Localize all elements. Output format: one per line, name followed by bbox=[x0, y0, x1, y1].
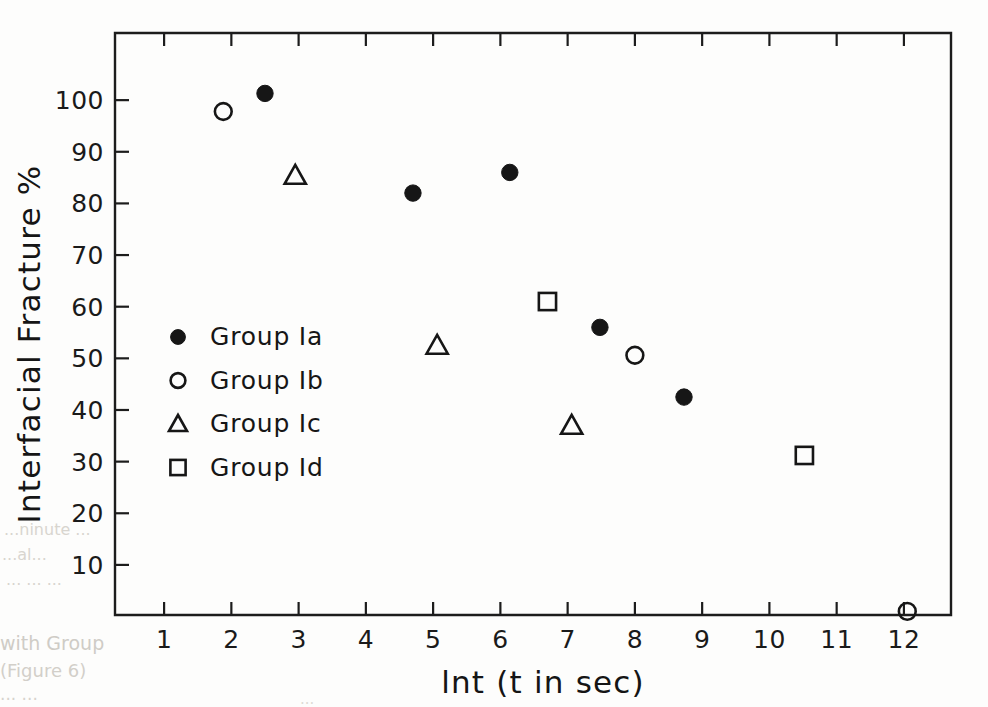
x-tick-label: 6 bbox=[492, 625, 508, 654]
y-tick-label: 60 bbox=[71, 293, 104, 322]
legend-marker-open-triangle bbox=[169, 415, 187, 431]
y-tick-label: 30 bbox=[71, 448, 104, 477]
y-axis-title: Interfacial Fracture % bbox=[11, 165, 47, 524]
legend-entry-group-id: Group Id bbox=[170, 453, 323, 482]
y-tick-label: 40 bbox=[71, 396, 104, 425]
data-point-filled-circle bbox=[502, 164, 518, 180]
y-tick-label: 50 bbox=[71, 344, 104, 373]
x-tick-label: 4 bbox=[358, 625, 374, 654]
y-tick-label: 10 bbox=[71, 551, 104, 580]
series-group-id bbox=[539, 293, 813, 464]
y-tick-label: 70 bbox=[71, 241, 104, 270]
data-point-open-circle bbox=[626, 347, 643, 364]
data-point-filled-circle bbox=[257, 85, 273, 101]
data-point-open-square bbox=[796, 447, 813, 464]
legend-label: Group Ia bbox=[210, 322, 323, 351]
legend-entry-group-ic: Group Ic bbox=[169, 409, 322, 438]
data-point-open-circle bbox=[215, 103, 232, 120]
data-point-filled-circle bbox=[405, 185, 421, 201]
data-point-open-triangle bbox=[561, 415, 582, 434]
y-tick-label: 80 bbox=[71, 189, 104, 218]
legend-marker-open-circle bbox=[171, 373, 186, 388]
x-tick-label: 10 bbox=[753, 625, 786, 654]
data-point-open-triangle bbox=[427, 335, 448, 354]
figure-scatter-interfacial-fracture: ...ninute ... ...al... ... ... ... with … bbox=[0, 0, 988, 707]
legend-marker-open-square bbox=[170, 460, 185, 475]
legend-label: Group Id bbox=[210, 453, 324, 482]
x-tick-label: 11 bbox=[820, 625, 853, 654]
plot-canvas: 123456789101112 102030405060708090100 Gr… bbox=[0, 0, 988, 707]
x-tick-label: 2 bbox=[223, 625, 239, 654]
x-tick-label: 7 bbox=[559, 625, 575, 654]
x-tick-label: 12 bbox=[888, 625, 921, 654]
data-points bbox=[215, 85, 916, 620]
y-tick-label: 20 bbox=[71, 499, 104, 528]
x-axis-title: lnt (t in sec) bbox=[441, 664, 645, 700]
y-axis-ticks: 102030405060708090100 bbox=[55, 86, 129, 580]
data-point-open-square bbox=[539, 293, 556, 310]
data-point-open-triangle bbox=[285, 165, 306, 184]
y-tick-label: 100 bbox=[55, 86, 104, 115]
x-tick-label: 5 bbox=[425, 625, 441, 654]
legend-entry-group-ia: Group Ia bbox=[171, 322, 324, 351]
data-point-filled-circle bbox=[676, 389, 692, 405]
legend-marker-filled-circle bbox=[171, 330, 186, 345]
legend-label: Group Ic bbox=[210, 409, 322, 438]
series-group-ib bbox=[215, 103, 916, 620]
data-point-open-circle bbox=[899, 603, 916, 620]
y-tick-label: 90 bbox=[71, 138, 104, 167]
x-tick-label: 9 bbox=[694, 625, 710, 654]
x-tick-label: 1 bbox=[156, 625, 172, 654]
legend: Group IaGroup IbGroup IcGroup Id bbox=[169, 322, 324, 482]
data-point-filled-circle bbox=[592, 319, 608, 335]
legend-entry-group-ib: Group Ib bbox=[171, 366, 324, 395]
legend-label: Group Ib bbox=[210, 366, 324, 395]
x-tick-label: 8 bbox=[627, 625, 643, 654]
x-tick-label: 3 bbox=[290, 625, 306, 654]
